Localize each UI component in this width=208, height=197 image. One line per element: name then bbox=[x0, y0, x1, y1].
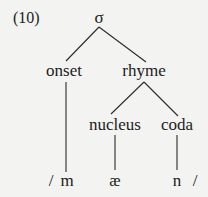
tree-branches bbox=[0, 0, 208, 197]
example-number: (10) bbox=[13, 9, 40, 27]
nucleus-node: nucleus bbox=[89, 116, 141, 133]
branch-rhyme-coda bbox=[144, 82, 178, 116]
segment-ae: æ bbox=[109, 172, 120, 189]
coda-node: coda bbox=[161, 116, 193, 133]
branch-rhyme-nucleus bbox=[111, 82, 144, 114]
syllable-node: σ bbox=[94, 9, 103, 26]
open-slash: / bbox=[49, 172, 54, 189]
branch-root-onset bbox=[66, 27, 99, 61]
rhyme-node: rhyme bbox=[122, 62, 165, 79]
segment-n: n bbox=[173, 172, 182, 189]
onset-node: onset bbox=[46, 62, 82, 79]
branch-root-rhyme bbox=[99, 27, 146, 62]
close-slash: / bbox=[193, 172, 198, 189]
segment-m: m bbox=[60, 172, 73, 189]
